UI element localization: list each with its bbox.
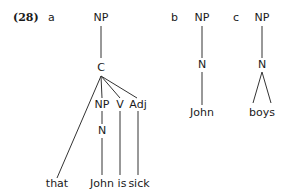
edge-c-that — [57, 76, 101, 178]
tree-b-n: N — [198, 59, 206, 71]
tree-a-leaf-that: that — [46, 178, 68, 190]
tree-c-leaf-boys: boys — [249, 107, 275, 119]
tree-b-leaf-john: John — [190, 107, 214, 119]
tree-a-adj: Adj — [129, 99, 146, 111]
tree-a-leaf-is: is — [118, 178, 127, 190]
tree-c-root-np: NP — [255, 12, 270, 24]
tree-a-c: C — [97, 62, 105, 74]
edge-c-n-right — [262, 72, 271, 103]
tree-a-v: V — [116, 99, 124, 111]
tree-a-n: N — [98, 125, 106, 137]
edge-c-np — [101, 76, 102, 98]
tree-b-label: b — [171, 12, 178, 24]
edge-c-adj — [101, 76, 137, 98]
tree-a-np: NP — [95, 99, 110, 111]
tree-a-leaf-john: John — [90, 178, 114, 190]
tree-b-root-np: NP — [195, 12, 210, 24]
tree-edges — [0, 0, 285, 193]
tree-a-label: a — [48, 12, 55, 24]
tree-a-leaf-sick: sick — [128, 178, 149, 190]
tree-c-n: N — [258, 59, 266, 71]
example-number: (28) — [13, 12, 39, 24]
tree-c-label: c — [233, 12, 239, 24]
tree-a-root-np: NP — [94, 12, 109, 24]
edge-c-v — [101, 76, 120, 98]
edge-c-n-left — [253, 72, 262, 103]
